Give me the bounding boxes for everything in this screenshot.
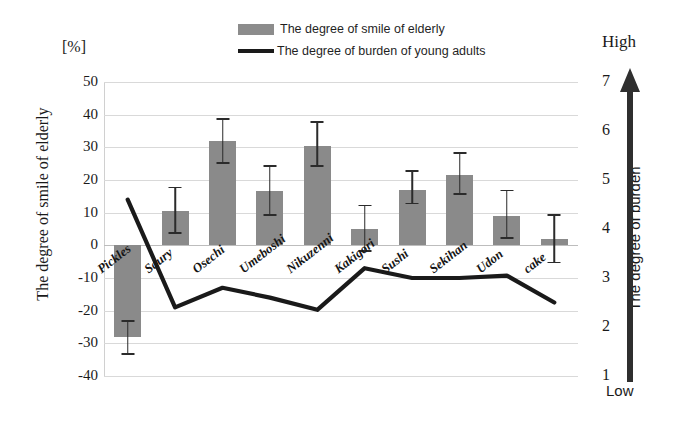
right-axis-high-label: High bbox=[602, 32, 636, 52]
right-tick-label: 3 bbox=[588, 268, 610, 286]
left-tick-label: 30 bbox=[58, 138, 98, 155]
chart-legend: The degree of smile of elderly The degre… bbox=[238, 18, 558, 62]
chart-figure: The degree of smile of elderly The degre… bbox=[0, 0, 679, 436]
left-axis-ticks: 50403020100-10-20-30-40 bbox=[50, 82, 98, 376]
right-tick-label: 1 bbox=[588, 366, 610, 384]
right-axis-low-label: Low bbox=[606, 382, 634, 399]
legend-label-smile: The degree of smile of elderly bbox=[280, 22, 445, 36]
plot-area: PicklesSauryOsechiUmeboshiNikuzenniKakig… bbox=[104, 82, 578, 376]
gridline bbox=[104, 376, 578, 377]
right-tick-label: 4 bbox=[588, 219, 610, 237]
unit-label: [%] bbox=[62, 38, 86, 56]
left-tick-label: -40 bbox=[58, 367, 98, 384]
left-tick-label: -10 bbox=[58, 269, 98, 286]
legend-item-burden: The degree of burden of young adults bbox=[238, 40, 558, 62]
burden-arrow-icon bbox=[619, 68, 641, 382]
left-tick-label: 40 bbox=[58, 106, 98, 123]
left-tick-label: -30 bbox=[58, 334, 98, 351]
legend-label-burden: The degree of burden of young adults bbox=[277, 44, 485, 58]
legend-bar-swatch-icon bbox=[238, 24, 274, 35]
left-tick-label: 10 bbox=[58, 204, 98, 221]
legend-line-swatch-icon bbox=[238, 49, 274, 53]
left-tick-label: 0 bbox=[58, 236, 98, 253]
left-tick-label: 20 bbox=[58, 171, 98, 188]
right-tick-label: 7 bbox=[588, 72, 610, 90]
line-series bbox=[104, 82, 578, 376]
right-tick-label: 5 bbox=[588, 170, 610, 188]
right-tick-label: 6 bbox=[588, 121, 610, 139]
legend-item-smile: The degree of smile of elderly bbox=[238, 18, 558, 40]
left-tick-label: -20 bbox=[58, 302, 98, 319]
left-tick-label: 50 bbox=[58, 73, 98, 90]
right-tick-label: 2 bbox=[588, 317, 610, 335]
right-axis-ticks: 7654321 bbox=[588, 82, 612, 376]
